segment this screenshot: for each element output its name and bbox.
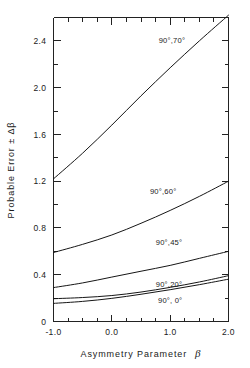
curve-90-0 xyxy=(54,279,229,303)
curve-label-group: 90°,70°90°,60°90°,45°90°,20°90°, 0° xyxy=(150,36,185,305)
y-tick-label: 0.8 xyxy=(33,223,46,233)
x-tick-label: 0.0 xyxy=(105,327,118,337)
curve-label-1: 90°,60° xyxy=(150,187,176,196)
curve-label-3: 90°,20° xyxy=(156,280,182,289)
curve-90-45 xyxy=(54,251,229,287)
y-tick-label: 1.2 xyxy=(33,176,46,186)
x-axis-ticks xyxy=(54,18,229,322)
probable-error-line-chart: -1.00.01.02.0 00.40.81.21.62.02.4 90°,70… xyxy=(0,0,250,368)
y-tick-label: 0 xyxy=(41,317,46,327)
y-tick-label: 0.4 xyxy=(33,270,46,280)
curve-90-20 xyxy=(54,276,229,299)
y-tick-label-group: 00.40.81.21.62.02.4 xyxy=(33,36,46,327)
y-axis-ticks xyxy=(54,41,229,322)
curve-group xyxy=(54,15,229,303)
curve-90-70 xyxy=(54,15,229,179)
curve-label-4: 90°, 0° xyxy=(158,296,182,305)
y-axis-title: Probable Error ± Δβ xyxy=(6,122,16,219)
plot-frame xyxy=(54,18,229,322)
x-tick-label: -1.0 xyxy=(45,327,61,337)
curve-label-0: 90°,70° xyxy=(159,36,185,45)
y-tick-label: 1.6 xyxy=(33,130,46,140)
x-tick-label-group: -1.00.01.02.0 xyxy=(45,327,235,337)
chart-figure: -1.00.01.02.0 00.40.81.21.62.02.4 90°,70… xyxy=(0,0,250,368)
x-tick-label: 1.0 xyxy=(164,327,177,337)
y-tick-label: 2.0 xyxy=(33,83,46,93)
curve-label-2: 90°,45° xyxy=(156,238,182,247)
curve-90-60 xyxy=(54,181,229,252)
x-axis-title: Asymmetry Parameterβ xyxy=(80,347,201,359)
y-tick-label: 2.4 xyxy=(33,36,46,46)
x-tick-label: 2.0 xyxy=(222,327,235,337)
